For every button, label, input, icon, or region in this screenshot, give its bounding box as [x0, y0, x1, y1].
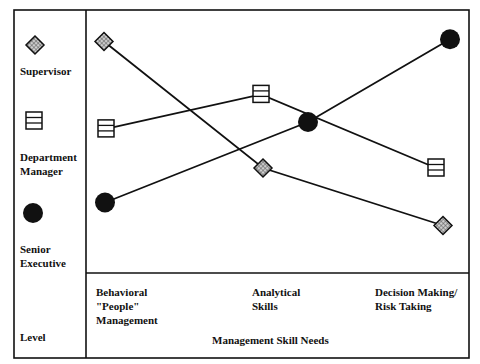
circle-marker-icon — [298, 112, 318, 132]
category-line: Analytical — [252, 285, 300, 299]
series-line-senior-executive — [105, 39, 450, 202]
legend-label-manager: Manager — [20, 164, 63, 178]
circle-marker-icon — [440, 29, 460, 49]
diamond-marker-icon — [254, 159, 272, 177]
x-axis-title: Management Skill Needs — [212, 333, 329, 347]
category-line: Management — [96, 313, 158, 327]
series-line-supervisor — [104, 42, 443, 226]
legend-label-senior: Senior — [20, 242, 51, 256]
circle-marker-icon — [95, 193, 115, 213]
legend-label-executive: Executive — [20, 256, 66, 270]
striped-square-marker-icon — [428, 159, 444, 176]
category-line: Skills — [252, 299, 300, 313]
striped-square-marker-icon — [253, 85, 269, 102]
striped-square-marker-icon — [98, 120, 114, 137]
diamond-marker-icon — [434, 217, 452, 235]
category-label-decision: Decision Making/ Risk Taking — [375, 285, 457, 313]
diamond-marker-icon — [95, 33, 113, 51]
category-line: Behavioral — [96, 285, 158, 299]
series-lines — [104, 39, 450, 225]
legend-label-supervisor: Supervisor — [20, 64, 71, 78]
category-line: "People" — [96, 299, 158, 313]
legend-senior-executive-circle-icon — [23, 203, 43, 223]
series-markers — [95, 29, 460, 234]
category-line: Decision Making/ — [375, 285, 457, 299]
legend-title-level: Level — [20, 330, 46, 344]
category-line: Risk Taking — [375, 299, 457, 313]
legend-department-manager-square-icon — [26, 112, 42, 129]
series-line-department-manager — [106, 94, 436, 168]
category-label-behavioral: Behavioral "People" Management — [96, 285, 158, 327]
legend-supervisor-diamond-icon — [26, 36, 44, 54]
category-label-analytical: Analytical Skills — [252, 285, 300, 313]
legend-label-department: Department — [20, 150, 77, 164]
